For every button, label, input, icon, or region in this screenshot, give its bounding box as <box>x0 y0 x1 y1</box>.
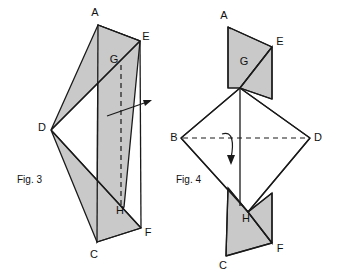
figure-canvas: AEGDHCFFig. 3AEGBDHCFFig. 4 <box>0 0 341 273</box>
vertex-label-h: H <box>242 212 250 224</box>
vertex-label-d: D <box>314 131 322 143</box>
vertex-label-a: A <box>91 6 99 18</box>
vertex-label-a: A <box>220 9 228 21</box>
vertex-label-f: F <box>277 242 284 254</box>
vertex-label-f: F <box>145 226 152 238</box>
vertex-label-c: C <box>219 259 227 271</box>
vertex-label-e: E <box>142 30 149 42</box>
caption-fig3: Fig. 3 <box>17 174 42 185</box>
vertex-label-g: G <box>110 53 119 65</box>
vertex-label-h: H <box>116 204 124 216</box>
diagram-root: AEGDHCFFig. 3AEGBDHCFFig. 4 <box>0 0 341 273</box>
vertex-label-d: D <box>38 121 46 133</box>
vertex-label-e: E <box>276 35 283 47</box>
vertex-label-g: G <box>240 55 249 67</box>
caption-fig4: Fig. 4 <box>176 174 201 185</box>
vertex-label-c: C <box>90 248 98 260</box>
vertex-label-b: B <box>170 131 177 143</box>
